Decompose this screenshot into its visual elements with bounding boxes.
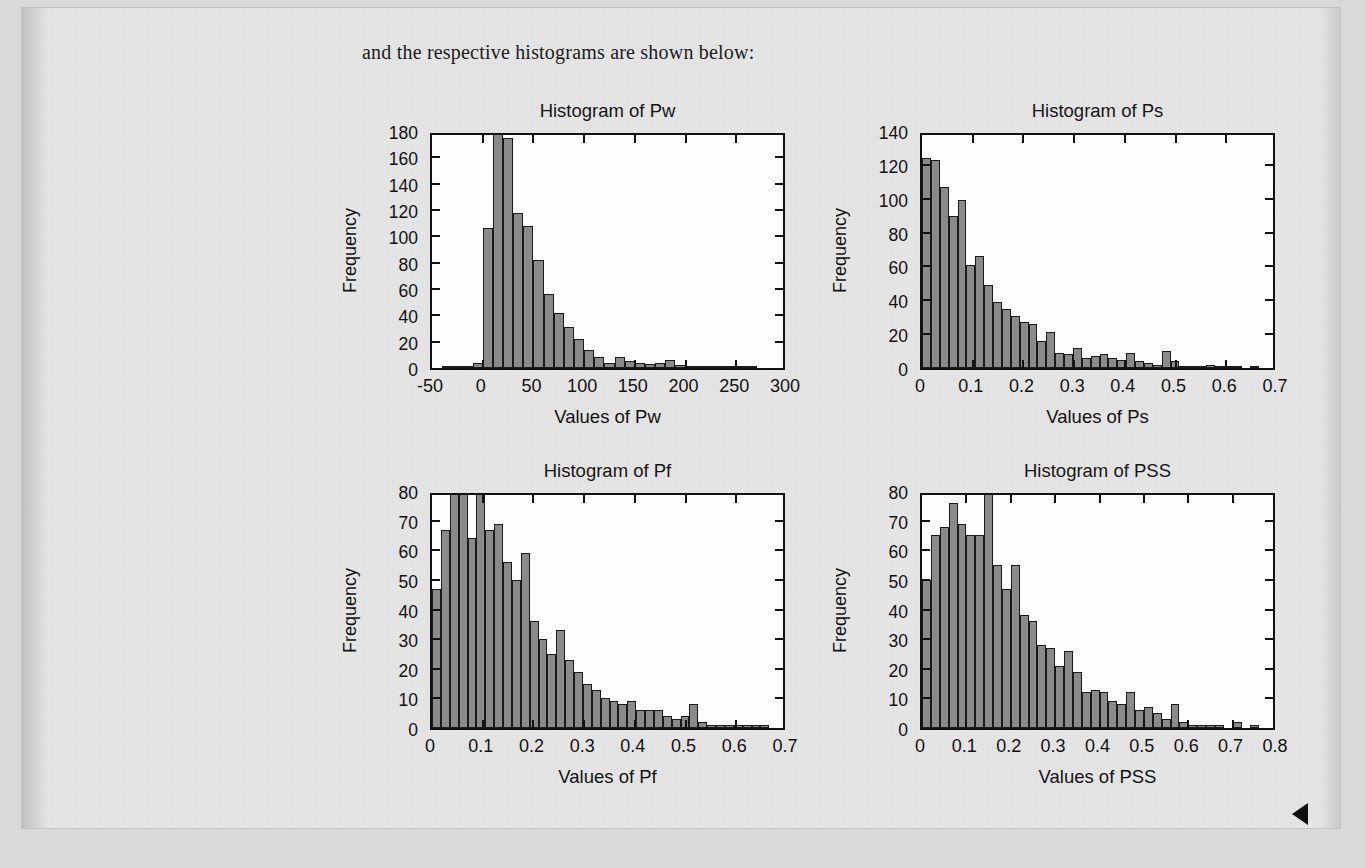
bar xyxy=(1055,353,1064,368)
bar xyxy=(1126,353,1135,368)
bar xyxy=(476,493,485,728)
bar xyxy=(459,493,468,728)
y-tick-label: 50 xyxy=(842,571,908,592)
x-tick xyxy=(1232,495,1234,503)
y-tick-label: 10 xyxy=(842,690,908,711)
x-tick xyxy=(735,360,737,368)
bar xyxy=(716,725,725,728)
x-tick xyxy=(482,360,484,368)
chart-title-pf: Histogram of Pf xyxy=(430,460,785,482)
bar xyxy=(922,580,931,728)
bar xyxy=(1188,366,1197,368)
bar xyxy=(565,660,574,728)
y-tick xyxy=(432,288,440,290)
bar xyxy=(503,138,513,368)
bar xyxy=(1064,354,1073,368)
x-axis-label-pw: Values of Pw xyxy=(430,406,785,428)
bar xyxy=(1073,672,1082,728)
y-tick-label: 60 xyxy=(352,542,418,563)
y-tick-label: 80 xyxy=(352,483,418,504)
y-tick xyxy=(1265,198,1273,200)
y-tick-label: 80 xyxy=(842,483,908,504)
bar xyxy=(452,366,462,368)
bar xyxy=(1197,366,1206,368)
y-tick-label: 160 xyxy=(352,149,418,170)
bar xyxy=(1037,341,1046,368)
x-tick xyxy=(1124,360,1126,368)
bar xyxy=(958,524,967,728)
y-tick xyxy=(1265,299,1273,301)
bar xyxy=(975,535,984,728)
y-tick xyxy=(775,579,783,581)
x-tick-label: 0.2 xyxy=(1009,376,1034,397)
x-tick-label: 0.3 xyxy=(570,736,595,757)
y-tick xyxy=(432,520,440,522)
bar xyxy=(554,313,564,368)
x-tick xyxy=(1225,360,1227,368)
y-tick xyxy=(775,262,783,264)
x-tick-label: 0.6 xyxy=(1212,376,1237,397)
bar xyxy=(931,535,940,728)
x-tick xyxy=(1187,495,1189,503)
x-tick xyxy=(1073,135,1075,143)
bar xyxy=(975,256,984,368)
x-tick-label: 250 xyxy=(719,376,749,397)
bar xyxy=(1197,725,1206,728)
y-tick-label: 20 xyxy=(352,660,418,681)
bar xyxy=(672,719,681,728)
bar xyxy=(736,366,746,368)
bar xyxy=(949,503,958,728)
bar xyxy=(468,538,477,728)
x-tick xyxy=(685,360,687,368)
y-tick-label: 70 xyxy=(352,512,418,533)
x-tick xyxy=(583,720,585,728)
bar xyxy=(1046,648,1055,728)
y-tick xyxy=(432,209,440,211)
bar xyxy=(462,366,472,368)
x-tick xyxy=(685,720,687,728)
x-tick-label: 0.4 xyxy=(1110,376,1135,397)
y-tick xyxy=(1265,265,1273,267)
x-tick xyxy=(1022,360,1024,368)
right-margin-shadow xyxy=(1320,8,1340,828)
x-tick-label: 0.7 xyxy=(1262,376,1287,397)
y-tick xyxy=(432,183,440,185)
y-tick xyxy=(775,235,783,237)
x-axis-label-pf: Values of Pf xyxy=(430,766,785,788)
y-tick-label: 40 xyxy=(352,307,418,328)
bar xyxy=(564,327,574,368)
y-tick-label: 120 xyxy=(842,156,908,177)
x-tick-label: 50 xyxy=(521,376,541,397)
bar xyxy=(1179,366,1188,368)
y-tick-label: 80 xyxy=(352,254,418,275)
bar xyxy=(1029,324,1038,368)
bar xyxy=(940,527,949,728)
bar xyxy=(485,530,494,728)
x-tick xyxy=(482,495,484,503)
bar xyxy=(949,216,958,368)
bar xyxy=(686,366,696,368)
x-tick xyxy=(1175,135,1177,143)
x-tick xyxy=(1124,135,1126,143)
x-tick xyxy=(735,720,737,728)
bar xyxy=(1117,704,1126,728)
bar xyxy=(1100,354,1109,368)
bar xyxy=(655,363,665,368)
bar xyxy=(1206,365,1215,368)
x-tick xyxy=(965,720,967,728)
y-tick xyxy=(922,520,930,522)
y-tick xyxy=(1265,638,1273,640)
y-axis-label-ps: Frequency xyxy=(830,170,851,330)
y-tick-label: 40 xyxy=(842,601,908,622)
y-tick-label: 140 xyxy=(842,123,908,144)
y-tick xyxy=(1265,668,1273,670)
bar xyxy=(1233,722,1242,728)
y-tick xyxy=(922,333,930,335)
bar xyxy=(530,621,539,728)
y-tick xyxy=(775,697,783,699)
y-axis-label-pw: Frequency xyxy=(340,170,361,330)
y-tick-label: 180 xyxy=(352,123,418,144)
x-tick-label: 0.7 xyxy=(772,736,797,757)
y-tick xyxy=(1265,232,1273,234)
bar xyxy=(665,360,675,368)
